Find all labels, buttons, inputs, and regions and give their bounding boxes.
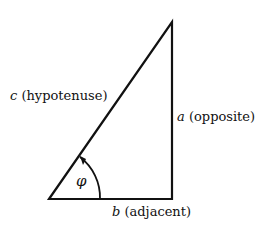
opposite-label: a (opposite)	[177, 110, 255, 123]
adjacent-symbol: b	[112, 204, 120, 219]
triangle-outline	[49, 22, 172, 199]
opposite-name: (opposite)	[189, 109, 255, 124]
angle-arrowhead-icon	[80, 156, 86, 165]
adjacent-name: (adjacent)	[124, 204, 191, 219]
angle-phi-label: φ	[76, 174, 87, 189]
hypotenuse-symbol: c	[10, 88, 17, 103]
hypotenuse-name: (hypotenuse)	[21, 88, 107, 103]
opposite-symbol: a	[177, 109, 185, 124]
hypotenuse-label: c (hypotenuse)	[10, 89, 107, 102]
adjacent-label: b (adjacent)	[112, 205, 191, 218]
